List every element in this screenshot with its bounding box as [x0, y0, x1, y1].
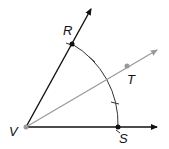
point-V [24, 125, 29, 130]
construction-arc [72, 44, 118, 127]
label-R: R [63, 23, 72, 38]
arc-tick-mark [89, 57, 95, 62]
label-S: S [119, 131, 128, 146]
point-R [70, 42, 75, 47]
label-T: T [127, 72, 136, 87]
angle-bisector-diagram: R T V S [0, 0, 169, 149]
ray-VR [26, 9, 91, 127]
point-S [116, 125, 121, 130]
ray-VT [26, 50, 157, 127]
label-V: V [9, 124, 19, 139]
point-T [125, 64, 130, 69]
arc-tick-mark [111, 102, 119, 104]
